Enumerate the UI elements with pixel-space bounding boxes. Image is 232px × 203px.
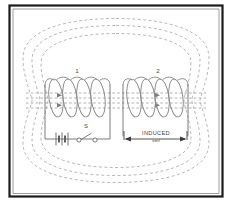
induced-emf-label: INDUCED xyxy=(142,130,170,136)
secondary-coil-label: 2 xyxy=(156,67,160,74)
induced-emf-sublabel: emf xyxy=(152,138,160,143)
induction-diagram: S 1 xyxy=(0,0,232,203)
figure-root: S 1 xyxy=(0,0,232,203)
primary-coil-label: 1 xyxy=(75,67,79,74)
switch-terminal-left xyxy=(77,138,81,142)
figure-frame xyxy=(10,6,223,197)
switch-terminal-right xyxy=(93,138,97,142)
switch-label: S xyxy=(84,123,88,129)
